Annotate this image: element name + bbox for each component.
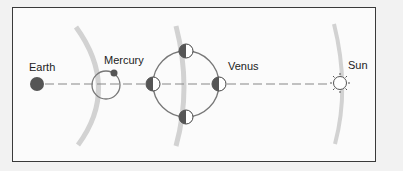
- venus-phase-top-icon: [179, 44, 193, 58]
- venus-phase-bottom-icon: [179, 110, 193, 124]
- venus-label: Venus: [228, 60, 259, 72]
- arc-band-mercury: [76, 27, 99, 145]
- venus-phase-left-icon: [146, 77, 160, 91]
- arc-band-venus: [176, 26, 184, 146]
- venus-phase-right-icon: [212, 77, 226, 91]
- solar-alignment-diagram: [0, 0, 403, 171]
- earth-icon: [30, 77, 44, 91]
- sun-icon: [330, 73, 350, 93]
- earth-label: Earth: [29, 61, 55, 73]
- mercury-icon: [111, 70, 118, 77]
- mercury-label: Mercury: [104, 54, 144, 66]
- sun-label: Sun: [348, 59, 368, 71]
